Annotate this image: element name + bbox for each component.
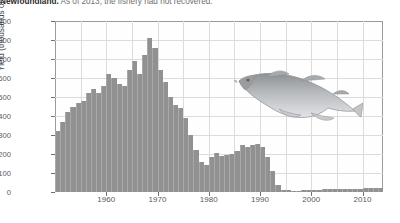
caption-rest: As of 2013, the fishery had not recovere… <box>59 0 213 6</box>
y-tick-mark-900 <box>51 21 55 22</box>
y-tick-mark-500 <box>51 97 55 98</box>
bar-2013 <box>378 188 383 192</box>
y-tick-label-700: 700 <box>0 55 11 64</box>
y-tick-label-200: 200 <box>0 150 11 159</box>
y-tick-mark-800 <box>51 40 55 41</box>
y-tick-label-400: 400 <box>0 112 11 121</box>
y-tick-mark-100 <box>51 173 55 174</box>
x-tick-mark-2010 <box>363 192 364 196</box>
x-tick-mark-1980 <box>209 192 210 196</box>
x-tick-mark-1990 <box>260 192 261 196</box>
cod-fishery-figure: Newfoundland. As of 2013, the fishery ha… <box>0 0 400 223</box>
y-tick-label-300: 300 <box>0 131 11 140</box>
plot-panel <box>55 21 383 192</box>
y-tick-label-600: 600 <box>0 74 11 83</box>
y-tick-label-900: 900 <box>0 17 11 26</box>
y-tick-mark-700 <box>51 59 55 60</box>
y-tick-mark-300 <box>51 135 55 136</box>
y-tick-label-800: 800 <box>0 36 11 45</box>
x-tick-label-2010: 2010 <box>333 195 393 204</box>
caption-lead: Newfoundland. <box>0 0 59 6</box>
y-tick-label-0: 0 <box>0 188 11 197</box>
y-tick-mark-200 <box>51 154 55 155</box>
y-tick-label-100: 100 <box>0 169 11 178</box>
atlantic-cod-illustration <box>233 65 363 125</box>
x-tick-mark-1970 <box>158 192 159 196</box>
y-tick-mark-600 <box>51 78 55 79</box>
y-tick-mark-0 <box>51 192 55 193</box>
y-tick-label-500: 500 <box>0 93 11 102</box>
x-tick-mark-2000 <box>311 192 312 196</box>
x-tick-mark-1960 <box>106 192 107 196</box>
y-tick-mark-400 <box>51 116 55 117</box>
figure-caption: Newfoundland. As of 2013, the fishery ha… <box>0 0 400 8</box>
